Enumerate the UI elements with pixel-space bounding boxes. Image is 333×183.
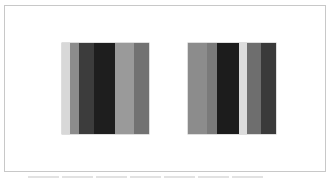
color-stripe (239, 43, 247, 134)
figure-frame (4, 5, 326, 172)
caption-text-fragment (164, 176, 195, 178)
color-stripe (207, 43, 217, 134)
color-stripe (79, 43, 94, 134)
color-stripe (70, 43, 79, 134)
color-stripe (261, 43, 276, 134)
figure-caption (28, 174, 263, 179)
color-stripe (62, 43, 70, 134)
caption-text-fragment (232, 176, 263, 178)
caption-text-fragment (198, 176, 229, 178)
caption-text-fragment (62, 176, 93, 178)
caption-text-fragment (96, 176, 127, 178)
caption-text-fragment (28, 176, 59, 178)
color-stripe (247, 43, 261, 134)
color-stripe (217, 43, 239, 134)
caption-text-fragment (130, 176, 161, 178)
right-panel (188, 43, 276, 134)
color-stripe (94, 43, 115, 134)
left-panel (62, 43, 149, 134)
color-stripe (134, 43, 149, 134)
color-stripe (115, 43, 134, 134)
color-stripe (188, 43, 207, 134)
